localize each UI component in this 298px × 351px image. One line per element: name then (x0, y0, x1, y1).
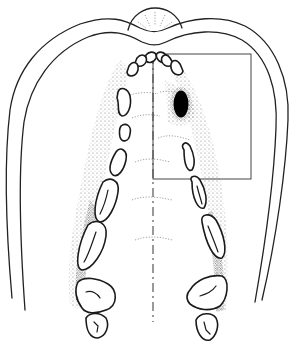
tooth-left-premolar-2 (119, 124, 130, 140)
gingiva-stipple (69, 60, 228, 312)
tooth-left-molar-1 (110, 149, 126, 175)
tooth-right-molar-2 (187, 276, 227, 310)
tooth-right-molar-3 (196, 314, 218, 341)
tooth-left-molar-4 (76, 278, 115, 312)
lesion-mark (170, 87, 192, 121)
tooth-right-premolar-1 (183, 143, 194, 170)
tooth-left-molar-5 (86, 314, 108, 339)
tooth-right-canine (171, 61, 183, 75)
dental-arch-diagram (0, 0, 298, 351)
tooth-left-premolar-1 (117, 89, 131, 116)
tooth-left-canine (127, 63, 138, 76)
